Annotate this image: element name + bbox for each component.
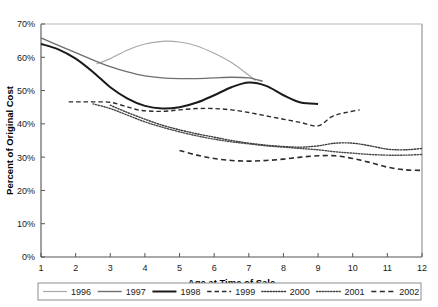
legend-label-1997: 1997 [126,287,146,297]
series-line-1997 [41,38,263,81]
x-tick-label: 10 [348,263,358,273]
legend-label-2002: 2002 [399,287,419,297]
y-tick-label: 50% [17,86,35,96]
series-line-1996 [96,41,255,80]
y-tick-label: 40% [17,119,35,129]
x-tick-label: 11 [383,263,392,273]
x-tick-label: 2 [73,263,78,273]
y-tick-label: 60% [17,53,35,63]
legend-label-1996: 1996 [71,287,91,297]
y-tick-label: 0% [22,252,35,262]
x-tick-label: 8 [281,263,286,273]
x-tick-label: 4 [142,263,147,273]
y-tick-label: 30% [17,153,35,163]
x-tick-label: 3 [108,263,113,273]
y-tick-label: 70% [17,19,35,29]
series-line-2002 [180,150,422,170]
y-tick-label: 10% [17,219,35,229]
x-tick-label: 6 [212,263,217,273]
legend-label-2001: 2001 [345,287,365,297]
x-tick-label: 12 [417,263,427,273]
legend-label-1999: 1999 [235,287,255,297]
line-chart: 0%10%20%30%40%50%60%70%123456789101112Ag… [0,0,438,307]
legend-label-2000: 2000 [290,287,310,297]
x-tick-label: 5 [177,263,182,273]
chart-canvas: 0%10%20%30%40%50%60%70%123456789101112Ag… [0,0,438,307]
x-tick-label: 7 [246,263,251,273]
x-tick-label: 9 [316,263,321,273]
x-tick-label: 1 [38,263,43,273]
series-line-1999 [69,102,360,126]
series-line-1998 [41,44,318,109]
legend-label-1998: 1998 [180,287,200,297]
series-line-2001 [93,104,422,155]
y-axis-title: Percent of Original Cost [4,85,15,195]
y-tick-label: 20% [17,186,35,196]
